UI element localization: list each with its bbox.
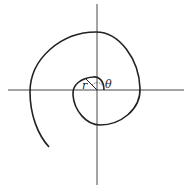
radius-label: r: [82, 79, 88, 92]
angle-label: θ: [105, 78, 112, 91]
spiral-diagram: r θ: [0, 0, 187, 193]
